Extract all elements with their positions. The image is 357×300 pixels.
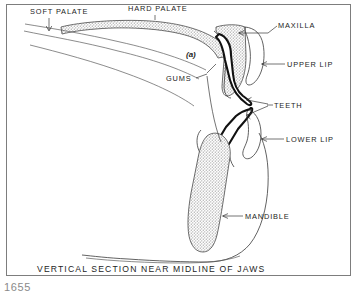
label-lower-lip: LOWER LIP <box>286 135 334 144</box>
label-marker-a: (a) <box>186 50 196 59</box>
label-mandible: MANDIBLE <box>245 212 290 221</box>
chin-profile-contour <box>82 133 268 262</box>
label-teeth: TEETH <box>274 101 302 110</box>
label-gums: GUMS <box>166 74 192 83</box>
label-soft-palate: SOFT PALATE <box>30 7 88 16</box>
figure-number: 1655 <box>4 281 31 293</box>
tongue-base-contour <box>86 256 240 263</box>
figure-canvas: SOFT PALATE HARD PALATE MAXILLA UPPER LI… <box>0 0 357 300</box>
leader-gums-lower <box>207 76 221 142</box>
label-hard-palate: HARD PALATE <box>128 4 188 13</box>
soft-palate-contour <box>24 31 199 79</box>
label-maxilla: MAXILLA <box>278 21 315 30</box>
anatomy-figure: SOFT PALATE HARD PALATE MAXILLA UPPER LI… <box>0 0 357 300</box>
upper-lip-contour <box>245 27 264 85</box>
figure-caption: VERTICAL SECTION NEAR MIDLINE OF JAWS <box>37 264 265 274</box>
label-upper-lip: UPPER LIP <box>287 60 333 69</box>
leader-gums-upper <box>207 64 216 73</box>
palate-shape <box>61 20 229 58</box>
mandible-shape <box>188 133 230 252</box>
leader-gums-stem <box>196 74 207 78</box>
